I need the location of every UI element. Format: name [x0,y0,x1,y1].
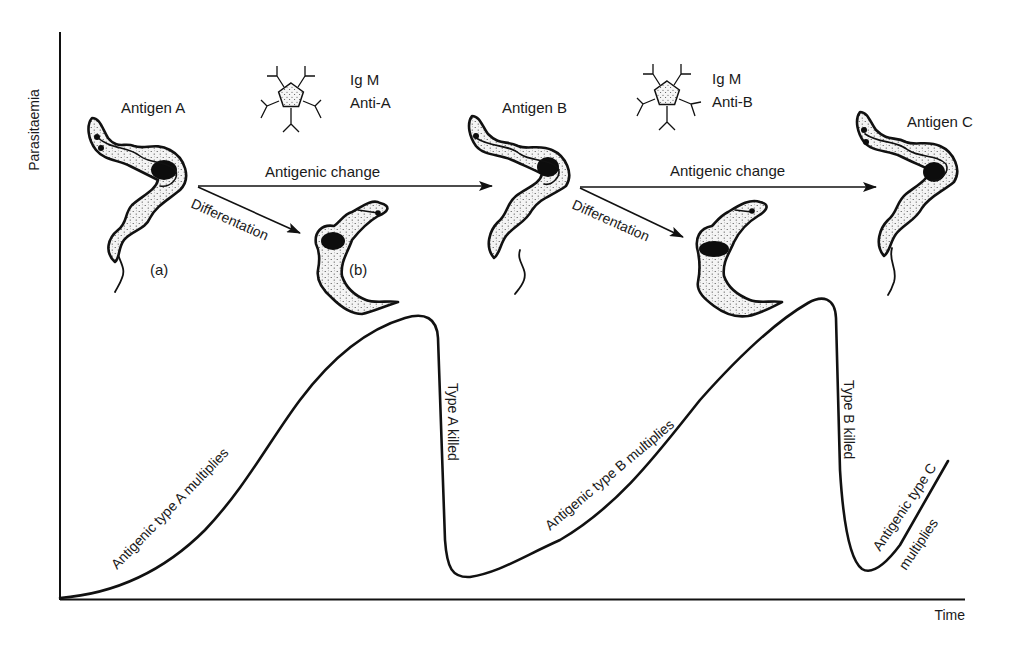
x-axis-label: Time [934,607,965,623]
label-type-b-multiplies: Antigenic type B multiplies [542,416,677,533]
igm-b-line2: Anti-B [712,93,753,110]
igm-icon [637,64,701,130]
axes: Parasitaemia Time [26,32,965,623]
y-axis-label: Parasitaemia [26,89,42,171]
igm-b-line1: Ig M [712,70,741,87]
label-type-a-killed: Type A killed [445,383,461,461]
trypanosome-antigen-c: Antigen C [857,112,973,295]
antigen-b-label: Antigen B [502,99,567,116]
igm-a-line1: Ig M [350,71,379,88]
antigenic-change-label-2: Antigenic change [670,162,785,179]
antigen-a-label: Antigen A [121,99,185,116]
igm-pentamer-anti-b: Ig M Anti-B [637,64,753,130]
trypanosome-antigen-a: Antigen A (a) [89,99,187,292]
antigen-c-label: Antigen C [907,113,973,130]
igm-a-line2: Anti-A [350,94,391,111]
label-type-a-multiplies: Antigenic type A multiplies [108,445,232,573]
igm-icon [261,66,321,132]
form-b-label: (b) [349,261,367,278]
antigenic-variation-diagram: Parasitaemia Time Antigenic type A multi… [0,0,1017,654]
trypanosome-antigen-b: Antigen B [469,99,569,294]
form-a-label: (a) [150,261,168,278]
parasitaemia-curve [60,299,948,598]
antigenic-change-label-1: Antigenic change [265,163,380,180]
stumpy-form-b: (b) [316,202,398,314]
label-type-b-killed: Type B killed [841,380,857,459]
differentiation-label-1: Differentation [189,195,271,243]
stumpy-form-b2 [697,201,782,316]
igm-pentamer-anti-a: Ig M Anti-A [261,66,391,132]
